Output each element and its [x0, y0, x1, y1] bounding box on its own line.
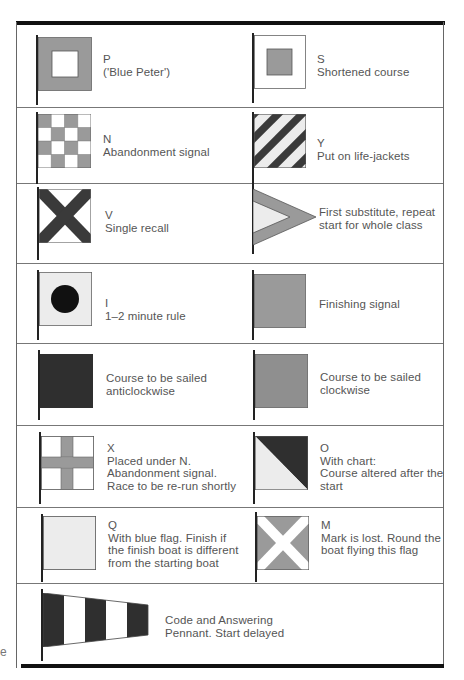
signal-letter: P	[103, 53, 170, 66]
signal-meaning-cont: Course altered after the	[320, 467, 443, 480]
signal-meaning: First substitute, repeat	[319, 206, 435, 219]
signal-meaning-cont: Race to be re-run shortly	[107, 480, 236, 493]
grey-square-flag-icon	[255, 354, 308, 408]
o-diagonal-half-flag-icon	[255, 436, 308, 490]
signal-cell-clockwise: Course to be sailed clockwise	[233, 344, 443, 425]
signal-cell-x: X Placed under N. Abandonment signal. Ra…	[17, 426, 233, 507]
signal-description: Code and Answering Pennant. Start delaye…	[165, 614, 284, 639]
signal-description: M Mark is lost. Round the boat flying th…	[321, 519, 441, 557]
signal-meaning-cont: boat flying this flag	[321, 544, 441, 557]
signal-meaning: Single recall	[105, 222, 169, 235]
signal-meaning-cont: start for whole class	[319, 219, 435, 232]
signal-meaning: Shortened course	[317, 66, 409, 79]
v-saltire-flag-icon	[39, 189, 91, 243]
signal-meaning-cont: start	[320, 480, 443, 493]
signal-meaning-cont: Pennant. Start delayed	[165, 627, 284, 640]
table-row: I 1–2 minute rule Finishing signal	[17, 264, 443, 344]
finishing-flag-icon	[254, 274, 306, 328]
signal-cell-q: Q With blue flag. Finish if the finish b…	[17, 508, 233, 583]
signal-description: V Single recall	[105, 209, 169, 234]
signal-flags-table: P ('Blue Peter') S Shortened course	[16, 22, 444, 668]
signal-cell-finishing: Finishing signal	[233, 264, 443, 343]
signal-cell-n: N Abandonment signal	[17, 108, 233, 183]
i-circle-flag-icon	[39, 272, 92, 326]
signal-description: Course to be sailed anticlockwise	[106, 372, 207, 397]
signal-description: Q With blue flag. Finish if the finish b…	[108, 519, 238, 569]
y-diagonal-stripes-flag-icon	[254, 114, 306, 168]
signal-meaning: With blue flag. Finish if	[108, 532, 238, 545]
signal-letter: V	[105, 209, 169, 222]
signal-meaning: Put on life-jackets	[317, 150, 410, 163]
column-divider	[232, 25, 233, 584]
signal-description: O With chart: Course altered after the s…	[320, 442, 443, 492]
signal-description: P ('Blue Peter')	[103, 53, 170, 78]
signal-letter: S	[317, 53, 409, 66]
table-row: P ('Blue Peter') S Shortened course	[17, 25, 443, 108]
signal-meaning: Course to be sailed	[106, 372, 207, 385]
signal-description: S Shortened course	[317, 53, 409, 78]
signal-description: Course to be sailed clockwise	[320, 371, 421, 396]
signal-meaning: Placed under N.	[107, 455, 236, 468]
signal-letter: M	[321, 519, 441, 532]
signal-cell-y: Y Put on life-jackets	[233, 108, 443, 183]
signal-meaning: ('Blue Peter')	[103, 66, 170, 79]
signal-meaning-cont: anticlockwise	[106, 385, 207, 398]
m-white-saltire-flag-icon	[257, 516, 309, 570]
first-substitute-pennant-icon	[253, 189, 317, 245]
signal-meaning-cont: Abandonment signal.	[107, 467, 236, 480]
signal-cell-s: S Shortened course	[233, 25, 443, 107]
n-checkered-flag-icon	[38, 114, 91, 168]
s-flag-icon	[254, 35, 306, 89]
signal-letter: X	[107, 442, 236, 455]
signal-description: X Placed under N. Abandonment signal. Ra…	[107, 442, 236, 492]
signal-cell-v: V Single recall	[17, 184, 233, 263]
signal-meaning: Mark is lost. Round the	[321, 532, 441, 545]
signal-description: Y Put on life-jackets	[317, 137, 410, 162]
signal-meaning: 1–2 minute rule	[105, 310, 186, 323]
signal-letter: O	[320, 442, 443, 455]
signal-meaning: With chart:	[320, 455, 443, 468]
signal-description: First substitute, repeat start for whole…	[319, 206, 435, 231]
signal-cell-answering-pennant: Code and Answering Pennant. Start delaye…	[17, 584, 443, 664]
signal-letter: Y	[317, 137, 410, 150]
signal-meaning: Course to be sailed	[320, 371, 421, 384]
signal-cell-i: I 1–2 minute rule	[17, 264, 233, 343]
signal-letter: Q	[108, 519, 238, 532]
signal-meaning: Finishing signal	[319, 298, 400, 311]
signal-cell-m: M Mark is lost. Round the boat flying th…	[233, 508, 443, 583]
signal-meaning: Code and Answering	[165, 614, 284, 627]
margin-text-fragment: e	[0, 645, 7, 659]
table-row: Q With blue flag. Finish if the finish b…	[17, 508, 443, 584]
signal-cell-p: P ('Blue Peter')	[17, 25, 233, 107]
signal-description: N Abandonment signal	[103, 133, 210, 158]
signal-cell-o: O With chart: Course altered after the s…	[233, 426, 443, 507]
signal-meaning-cont: clockwise	[320, 384, 421, 397]
signal-meaning: Abandonment signal	[103, 146, 210, 159]
signal-cell-anticlockwise: Course to be sailed anticlockwise	[17, 344, 233, 425]
q-plain-flag-icon	[43, 516, 96, 570]
signal-letter: N	[103, 133, 210, 146]
table-row: Course to be sailed anticlockwise Course…	[17, 344, 443, 426]
table-bottom-rule	[21, 664, 444, 668]
table-row: X Placed under N. Abandonment signal. Ra…	[17, 426, 443, 508]
x-cross-flag-icon	[41, 436, 94, 490]
p-blue-peter-flag-icon	[38, 37, 92, 91]
table-row: N Abandonment signal Y	[17, 108, 443, 184]
dark-square-flag-icon	[40, 354, 93, 408]
signal-cell-first-substitute: First substitute, repeat start for whole…	[233, 184, 443, 263]
signal-description: Finishing signal	[319, 298, 400, 311]
table-row: V Single recall First substitute, repeat…	[17, 184, 443, 264]
signal-meaning-cont: from the starting boat	[108, 557, 238, 570]
answering-pennant-icon	[43, 593, 149, 647]
signal-description: I 1–2 minute rule	[105, 297, 186, 322]
signal-letter: I	[105, 297, 186, 310]
table-row: Code and Answering Pennant. Start delaye…	[17, 584, 443, 664]
signal-meaning-cont: the finish boat is different	[108, 544, 238, 557]
